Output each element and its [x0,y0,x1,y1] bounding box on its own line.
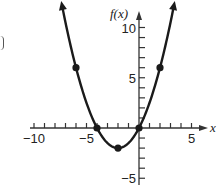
x-tick-label: −10 [23,131,45,146]
x-tick-label: 5 [188,131,195,146]
data-point [156,64,163,71]
y-tick-label: −5 [121,171,136,186]
y-tick-label: 10 [122,21,136,36]
y-axis-ticks [139,28,145,179]
y-axis-label: f(x) [110,6,128,21]
parabola-chart: x f(x) −10−55 105−5 [0,0,218,189]
y-tick-labels: 105−5 [121,21,136,187]
curve-arrow-left-icon [59,1,67,11]
x-axis-ticks [34,123,192,128]
x-tick-label: −5 [79,131,94,146]
data-point [93,124,100,131]
data-point [72,64,79,71]
y-tick-label: 5 [129,71,136,86]
x-axis-arrow-icon [199,125,208,131]
x-axis-label: x [209,120,216,135]
y-axis-arrow-icon [136,11,142,20]
data-point [114,145,121,152]
data-point [135,124,142,131]
curve-arrow-right-icon [169,1,177,11]
